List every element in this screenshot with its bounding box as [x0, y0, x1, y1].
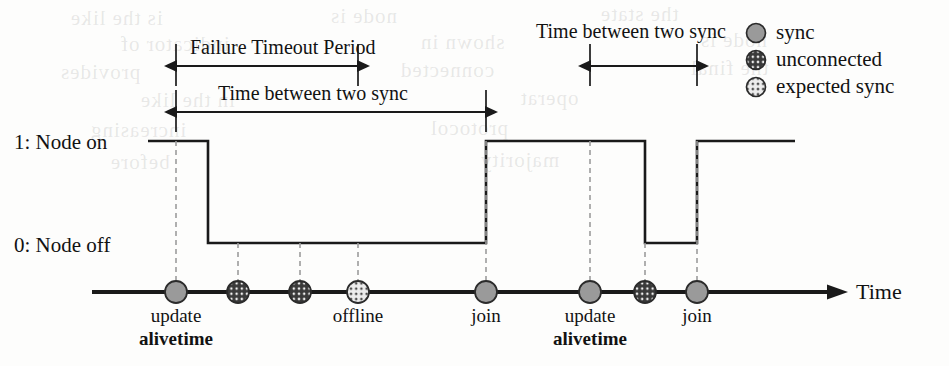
event-marker-unconnected-e7[interactable]	[634, 281, 656, 303]
span-label-failure-timeout: Failure Timeout Period	[190, 36, 376, 59]
node-state-waveform	[148, 141, 795, 243]
event-marker-unconnected-e2[interactable]	[227, 281, 249, 303]
event-label2-e1: alivetime	[101, 328, 251, 350]
axis-label-time: Time	[856, 279, 902, 305]
event-label2-e6: alivetime	[515, 328, 665, 350]
span-label-time-between-sync-left: Time between two sync	[218, 82, 408, 105]
event-label-e1: update	[101, 305, 251, 327]
timing-diagram-figure: is the likenode isthe stateindicator ofs…	[0, 0, 949, 366]
legend-label-expected-sync: expected sync	[776, 74, 894, 99]
event-label-e8: join	[622, 305, 772, 327]
event-marker-expected-sync-e4[interactable]	[347, 281, 369, 303]
event-marker-sync-e1[interactable]	[165, 281, 187, 303]
legend-label-unconnected: unconnected	[776, 47, 882, 72]
event-marker-sync-e5[interactable]	[475, 281, 497, 303]
expected-sync-marker	[745, 76, 767, 98]
span-label-time-between-sync-right: Time between two sync	[536, 20, 726, 43]
legend-label-sync: sync	[776, 20, 815, 45]
event-marker-sync-e6[interactable]	[579, 281, 601, 303]
event-marker-unconnected-e3[interactable]	[289, 281, 311, 303]
axis-label-node-off: 0: Node off	[14, 233, 110, 258]
sync-marker	[745, 22, 767, 44]
unconnected-marker	[745, 49, 767, 71]
event-marker-sync-e8[interactable]	[686, 281, 708, 303]
axis-label-node-on: 1: Node on	[14, 130, 107, 155]
